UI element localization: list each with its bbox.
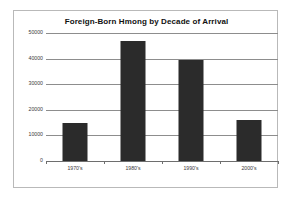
y-axis-tick-label: 40000 [29, 56, 43, 61]
bar[interactable] [179, 60, 204, 161]
x-axis: 1970's1980's1990's2000's [46, 161, 278, 189]
bar-slot [162, 33, 220, 161]
x-axis-tick-label: 2000's [241, 166, 256, 171]
chart-canvas: Foreign-Born Hmong by Decade of Arrival … [13, 10, 278, 188]
y-axis-tick-label: 50000 [29, 30, 43, 35]
y-axis-tick-label: 10000 [29, 133, 43, 138]
bar-slot [220, 33, 278, 161]
x-axis-tick [220, 161, 221, 164]
x-axis-tick [104, 161, 105, 164]
bar[interactable] [237, 120, 262, 161]
x-axis-tick-label: 1980's [125, 166, 140, 171]
bar[interactable] [63, 123, 88, 161]
chart-title: Foreign-Born Hmong by Decade of Arrival [14, 17, 279, 26]
x-axis-tick [162, 161, 163, 164]
bars-layer [46, 33, 278, 161]
y-axis-tick-label: 20000 [29, 107, 43, 112]
plot-area: 01000020000300004000050000 [46, 33, 278, 161]
bar[interactable] [121, 41, 146, 161]
x-axis-tick-label: 1990's [183, 166, 198, 171]
y-axis-tick-label: 0 [40, 158, 43, 163]
x-axis-tick [46, 161, 47, 164]
y-axis-tick-label: 30000 [29, 82, 43, 87]
bar-slot [104, 33, 162, 161]
x-axis-tick [278, 161, 279, 164]
x-axis-tick-label: 1970's [67, 166, 82, 171]
bar-slot [46, 33, 104, 161]
